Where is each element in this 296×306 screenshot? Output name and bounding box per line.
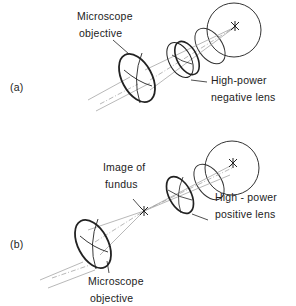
diagram-drawing bbox=[0, 0, 296, 306]
positive-lens-label-line2: positive lens bbox=[215, 208, 275, 221]
optics-diagram: (a) Microscope objective High-power nega… bbox=[0, 0, 296, 306]
negative-lens-label-line1: High-power bbox=[211, 74, 267, 87]
retina-image-star-a bbox=[231, 21, 239, 31]
panel-a-tag: (a) bbox=[10, 81, 23, 94]
positive-lens-label-line1: High - power bbox=[215, 191, 277, 204]
negative-lens-label-line2: negative lens bbox=[211, 91, 275, 104]
eye-globe-a bbox=[207, 3, 261, 57]
fundus-image-star bbox=[140, 206, 148, 216]
objective-label-b-line1: Microscope bbox=[88, 275, 144, 288]
negative-lens-a bbox=[161, 37, 204, 82]
panel-b-tag: (b) bbox=[10, 238, 23, 251]
image-of-fundus-label-line2: fundus bbox=[105, 178, 138, 191]
image-of-fundus-label-line1: Image of bbox=[103, 161, 145, 174]
objective-label-b-line2: objective bbox=[90, 292, 133, 305]
positive-lens-b bbox=[161, 172, 199, 218]
objective-label-a-line2: objective bbox=[79, 27, 122, 40]
retina-image-star-b bbox=[229, 158, 237, 168]
objective-label-a-line1: Microscope bbox=[77, 10, 133, 23]
